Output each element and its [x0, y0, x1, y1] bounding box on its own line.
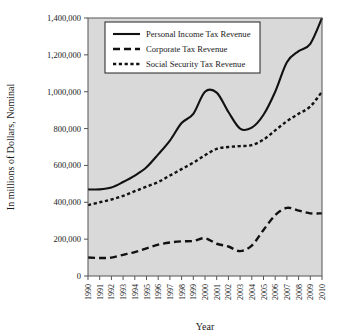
x-tick-label: 1997	[166, 284, 175, 300]
y-tick-label: 200,000	[53, 234, 81, 244]
x-tick-label: 1999	[189, 284, 198, 300]
y-tick-label: 600,000	[53, 160, 81, 170]
x-tick-label: 1993	[119, 284, 128, 300]
legend-label: Personal Income Tax Revenue	[146, 29, 251, 39]
x-tick-label: 1995	[143, 284, 152, 300]
x-tick-label: 1996	[154, 284, 163, 300]
x-tick-label: 2005	[260, 284, 269, 300]
x-tick-label: 2003	[236, 284, 245, 300]
legend-label: Social Security Tax Revenue	[146, 59, 245, 69]
y-tick-label: 1,400,000	[47, 13, 81, 23]
x-tick-label: 2001	[213, 284, 222, 300]
x-axis-tick-marks	[88, 276, 322, 280]
x-axis-tick-labels: 1990199119921993199419951996199719981999…	[84, 284, 327, 300]
x-tick-label: 2004	[248, 284, 257, 300]
x-tick-label: 1991	[96, 284, 105, 300]
tax-revenue-line-chart: 0200,000400,000600,000800,0001,000,0001,…	[0, 0, 340, 336]
x-tick-label: 1994	[131, 284, 140, 300]
x-tick-label: 2010	[318, 284, 327, 300]
y-tick-label: 1,200,000	[47, 50, 81, 60]
legend-label: Corporate Tax Revenue	[146, 44, 228, 54]
chart-legend: Personal Income Tax RevenueCorporate Tax…	[105, 22, 260, 73]
y-tick-label: 800,000	[53, 124, 81, 134]
x-tick-label: 2000	[201, 284, 210, 300]
x-tick-label: 2007	[283, 284, 292, 300]
x-tick-label: 1992	[107, 284, 116, 300]
y-tick-label: 400,000	[53, 197, 81, 207]
x-tick-label: 2009	[306, 284, 315, 300]
x-tick-label: 1998	[178, 284, 187, 300]
x-tick-label: 2008	[295, 284, 304, 300]
y-tick-label: 0	[77, 271, 81, 281]
x-axis-label: Year	[196, 321, 215, 332]
x-tick-label: 2006	[271, 284, 280, 300]
y-axis-label: In millions of Dollars, Nominal	[5, 84, 16, 211]
x-tick-label: 1990	[84, 284, 93, 300]
x-tick-label: 2002	[224, 284, 233, 300]
y-tick-label: 1,000,000	[47, 87, 81, 97]
